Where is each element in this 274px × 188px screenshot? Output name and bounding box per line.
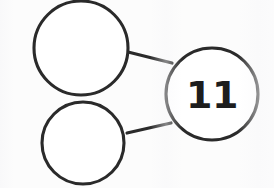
circle-part-top[interactable] bbox=[34, 1, 128, 95]
number-bond-svg: 11 bbox=[0, 0, 274, 188]
circle-part-bottom[interactable] bbox=[42, 102, 124, 184]
edge-bottom-part-to-whole bbox=[127, 123, 171, 133]
edge-top-part-to-whole bbox=[128, 52, 172, 63]
diagram-canvas: 11 bbox=[0, 0, 274, 188]
whole-value-label: 11 bbox=[186, 73, 238, 117]
node-group: 11 bbox=[34, 1, 258, 184]
